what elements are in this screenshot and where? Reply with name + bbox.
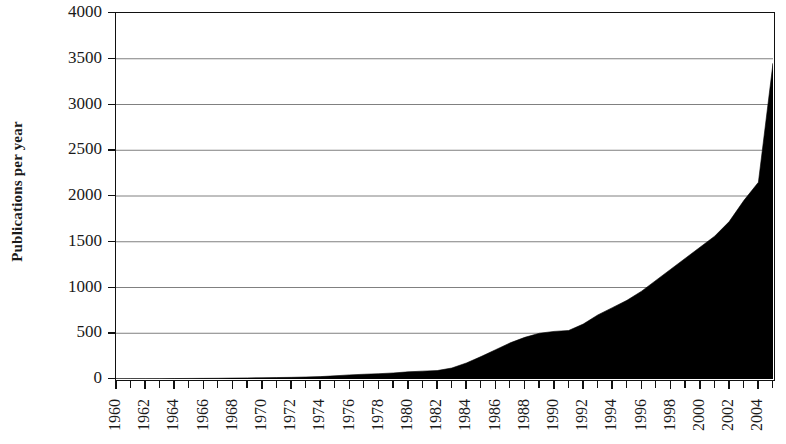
x-tick-label: 1960: [106, 389, 124, 443]
x-tick-mark: [203, 381, 205, 389]
x-tick-mark: [407, 381, 409, 389]
x-tick-mark: [451, 381, 452, 388]
x-tick-label: 2000: [690, 389, 708, 443]
x-tick-label: 1994: [602, 389, 620, 443]
y-tick-label: 3000: [68, 94, 102, 114]
x-tick-label-text: 1998: [661, 399, 679, 431]
chart-figure: Publications per year 050010001500200025…: [0, 0, 786, 444]
x-tick-mark: [670, 381, 672, 389]
x-tick-label-text: 1992: [573, 399, 591, 431]
x-tick-label: 1992: [573, 389, 591, 443]
x-tick-label: 1978: [369, 389, 387, 443]
x-tick-label-text: 1960: [106, 399, 124, 431]
x-tick-mark: [261, 381, 263, 389]
y-axis-title: Publications per year: [0, 0, 34, 382]
x-tick-mark: [290, 381, 292, 389]
x-tick-label: 2002: [719, 389, 737, 443]
x-tick-label-text: 1996: [632, 399, 650, 431]
x-tick-mark: [772, 381, 773, 388]
x-tick-mark: [538, 381, 539, 388]
x-tick-label-text: 2000: [690, 399, 708, 431]
x-tick-label-text: 1980: [398, 399, 416, 431]
x-tick-mark: [115, 381, 117, 389]
publications-area-series: [116, 63, 773, 379]
x-tick-label: 1990: [544, 389, 562, 443]
x-tick-label: 1976: [340, 389, 358, 443]
x-tick-label-text: 2002: [719, 399, 737, 431]
x-tick-mark: [568, 381, 569, 388]
x-tick-mark: [334, 381, 335, 388]
x-tick-mark: [363, 381, 364, 388]
x-tick-label: 1964: [164, 389, 182, 443]
x-tick-label-text: 1984: [456, 399, 474, 431]
y-axis-tick-labels: 05001000150020002500300035004000: [34, 0, 108, 394]
x-tick-mark: [422, 381, 423, 388]
x-tick-label-text: 1962: [135, 399, 153, 431]
x-tick-mark: [684, 381, 685, 388]
x-tick-mark: [392, 381, 393, 388]
x-tick-label-text: 2004: [748, 399, 766, 431]
x-tick-mark: [276, 381, 277, 388]
x-tick-label-text: 1986: [486, 399, 504, 431]
x-tick-label: 1974: [310, 389, 328, 443]
x-tick-label: 1984: [456, 389, 474, 443]
x-tick-mark: [305, 381, 306, 388]
x-axis-tick-labels: 1960196219641966196819701972197419761978…: [115, 389, 775, 444]
x-tick-mark: [495, 381, 497, 389]
x-axis-tick-marks: [115, 381, 775, 389]
x-tick-label: 1988: [515, 389, 533, 443]
x-tick-label: 1970: [252, 389, 270, 443]
x-tick-mark: [232, 381, 234, 389]
area-chart-svg: [116, 13, 773, 379]
x-tick-mark: [319, 381, 321, 389]
x-tick-mark: [597, 381, 598, 388]
x-tick-mark: [378, 381, 380, 389]
x-tick-label: 1996: [632, 389, 650, 443]
x-tick-mark: [144, 381, 146, 389]
x-tick-label: 1966: [194, 389, 212, 443]
y-axis-title-text: Publications per year: [9, 121, 26, 262]
x-tick-mark: [349, 381, 351, 389]
y-tick-label: 3500: [68, 48, 102, 68]
x-tick-mark: [757, 381, 759, 389]
x-tick-label: 1980: [398, 389, 416, 443]
x-tick-label: 1998: [661, 389, 679, 443]
y-tick-label: 4000: [68, 2, 102, 22]
x-tick-label-text: 1978: [369, 399, 387, 431]
x-tick-label-text: 1966: [194, 399, 212, 431]
x-tick-mark: [714, 381, 715, 388]
x-tick-mark: [509, 381, 510, 388]
y-tick-label: 1500: [68, 231, 102, 251]
x-tick-mark: [655, 381, 656, 388]
y-tick-label: 2000: [68, 185, 102, 205]
x-tick-label-text: 1994: [602, 399, 620, 431]
x-tick-mark: [743, 381, 744, 388]
x-tick-label-text: 1976: [340, 399, 358, 431]
x-tick-label-text: 1982: [427, 399, 445, 431]
y-tick-label: 2500: [68, 139, 102, 159]
x-tick-mark: [159, 381, 160, 388]
x-tick-label-text: 1964: [164, 399, 182, 431]
x-tick-mark: [246, 381, 247, 388]
x-tick-mark: [217, 381, 218, 388]
x-tick-mark: [436, 381, 438, 389]
x-tick-mark: [188, 381, 189, 388]
x-tick-label: 1982: [427, 389, 445, 443]
x-tick-label-text: 1990: [544, 399, 562, 431]
x-tick-mark: [582, 381, 584, 389]
x-tick-mark: [699, 381, 701, 389]
x-tick-mark: [553, 381, 555, 389]
plot-area: [115, 12, 775, 381]
x-tick-mark: [465, 381, 467, 389]
x-tick-label-text: 1970: [252, 399, 270, 431]
x-tick-label: 1986: [486, 389, 504, 443]
x-tick-mark: [524, 381, 526, 389]
x-tick-label: 1968: [223, 389, 241, 443]
x-tick-mark: [173, 381, 175, 389]
x-tick-mark: [626, 381, 627, 388]
x-tick-label: 2004: [748, 389, 766, 443]
x-tick-label-text: 1988: [515, 399, 533, 431]
x-tick-label: 1962: [135, 389, 153, 443]
x-tick-mark: [130, 381, 131, 388]
x-tick-mark: [728, 381, 730, 389]
